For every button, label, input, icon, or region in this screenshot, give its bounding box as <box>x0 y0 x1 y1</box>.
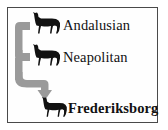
node-label-neapolitan: Neapolitan <box>63 50 128 65</box>
node-label-andalusian: Andalusian <box>63 18 130 33</box>
arrow-elbow <box>15 72 49 91</box>
breed-ancestry-figure: Andalusian Neapolitan Frederiksborg <box>0 0 168 130</box>
branch-to-andalusian <box>15 22 30 31</box>
node-label-frederiksborg: Frederiksborg <box>68 101 158 116</box>
horse-icon-andalusian <box>29 11 62 35</box>
horse-icon-neapolitan <box>29 43 62 67</box>
horse-icon-frederiksborg <box>38 96 69 118</box>
